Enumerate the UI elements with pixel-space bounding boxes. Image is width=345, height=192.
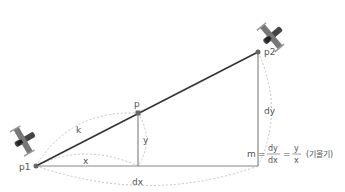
arc-dx	[36, 166, 258, 186]
slope-diagram: p1 p p2 k x y dx dy m = dy dx = y x (기울기…	[0, 0, 345, 192]
formula-num1: dy	[268, 144, 278, 153]
label-y: y	[143, 135, 149, 145]
formula-m: m	[247, 149, 256, 159]
formula-note: (기울기)	[306, 150, 333, 159]
formula-den2: x	[294, 156, 299, 165]
label-dy: dy	[264, 106, 276, 116]
formula-num2: y	[294, 144, 299, 153]
formula-den1: dx	[268, 156, 278, 165]
label-k: k	[76, 125, 82, 135]
point-p2	[256, 50, 261, 55]
label-p2: p2	[264, 47, 275, 57]
label-p: p	[134, 99, 140, 109]
formula-eq1: =	[258, 149, 266, 159]
formula-eq2: =	[283, 149, 291, 159]
label-dx: dx	[132, 177, 144, 187]
slope-line	[36, 52, 258, 166]
label-x: x	[83, 156, 89, 166]
point-p1	[34, 164, 39, 169]
spaceship-icon-p1	[8, 122, 41, 157]
label-p1: p1	[19, 162, 30, 172]
point-p	[136, 111, 141, 116]
